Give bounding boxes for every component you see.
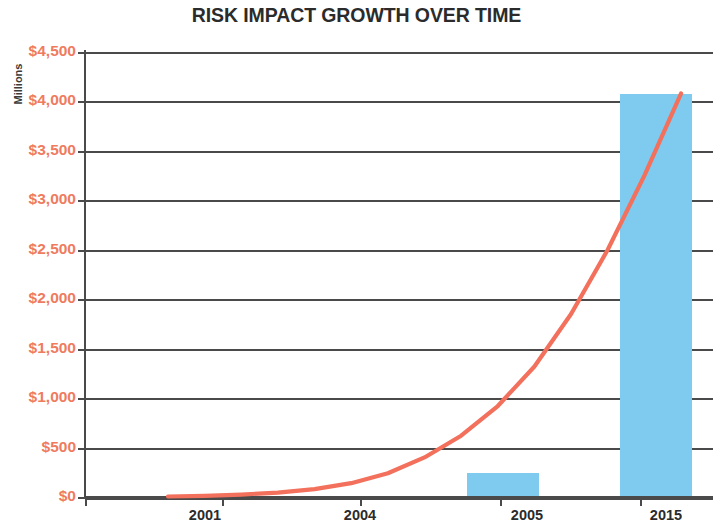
gridline	[85, 101, 713, 103]
x-axis-tick	[500, 497, 502, 506]
gridline	[85, 299, 713, 301]
y-axis-tick	[78, 101, 86, 103]
x-axis-line	[85, 496, 713, 499]
x-axis-tick-label: 2005	[467, 507, 587, 523]
y-axis-tick	[78, 448, 86, 450]
bar	[620, 94, 692, 497]
y-axis-tick-label: $0	[0, 487, 76, 505]
y-axis-tick	[78, 299, 86, 301]
y-axis-tick	[78, 200, 86, 202]
gridline	[85, 398, 713, 400]
gridline	[85, 200, 713, 202]
gridline	[85, 448, 713, 450]
x-axis-tick	[640, 497, 642, 506]
y-axis-tick	[78, 398, 86, 400]
y-axis-tick-label: $3,500	[0, 141, 76, 159]
y-axis-tick-label: $1,500	[0, 339, 76, 357]
y-axis-tick	[78, 349, 86, 351]
gridline	[85, 52, 713, 54]
x-axis-tick	[360, 497, 362, 506]
x-axis-tick-label: 2015	[606, 507, 713, 523]
y-axis-tick	[78, 52, 86, 54]
y-axis-tick-label: $3,000	[0, 190, 76, 208]
bar	[467, 473, 539, 497]
y-axis-tick-label: $4,000	[0, 91, 76, 109]
plot-area	[85, 52, 713, 497]
gridline	[85, 250, 713, 252]
y-axis-tick	[78, 250, 86, 252]
chart-title: RISK IMPACT GROWTH OVER TIME	[0, 4, 713, 27]
y-axis-tick-label: $1,000	[0, 388, 76, 406]
x-axis-tick	[85, 497, 87, 506]
y-axis-tick-label: $500	[0, 438, 76, 456]
y-axis-tick	[78, 151, 86, 153]
gridline	[85, 151, 713, 153]
y-axis-line	[84, 50, 86, 499]
y-axis-tick-label: $2,500	[0, 240, 76, 258]
x-axis-tick-label: 2001	[145, 507, 265, 523]
y-axis-tick-label: $2,000	[0, 289, 76, 307]
x-axis-tick-label: 2004	[300, 507, 420, 523]
y-axis-tick-label: $4,500	[0, 42, 76, 60]
x-axis-tick	[222, 497, 224, 506]
chart-container: RISK IMPACT GROWTH OVER TIME Millions $0…	[0, 0, 713, 528]
gridline	[85, 349, 713, 351]
